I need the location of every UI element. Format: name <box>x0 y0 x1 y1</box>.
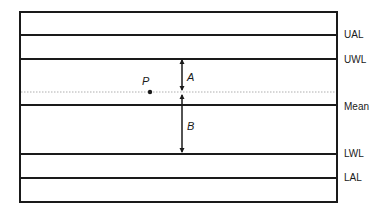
distance-a-label: A <box>187 71 194 83</box>
lal-label: LAL <box>344 172 362 184</box>
arrow-b-head-up-icon <box>180 94 185 99</box>
chart-frame <box>20 12 337 202</box>
arrow-a-head-down-icon <box>180 86 185 91</box>
mean-label: Mean <box>344 101 369 113</box>
lwl-label: LWL <box>344 148 364 160</box>
point-p-label: P <box>142 75 149 87</box>
uwl-label: UWL <box>344 54 366 66</box>
ual-label: UAL <box>344 29 363 41</box>
arrow-b-head-down-icon <box>180 148 185 153</box>
control-chart-diagram <box>0 0 383 214</box>
point-p-marker <box>148 90 152 94</box>
distance-b-label: B <box>187 120 194 132</box>
